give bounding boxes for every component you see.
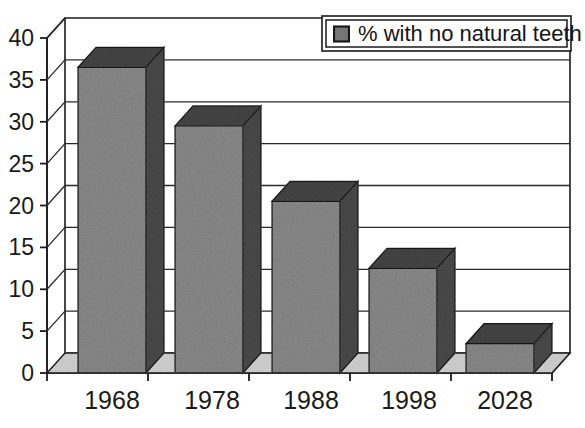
bar-1998 [369,248,455,373]
x-tick-label: 2028 [477,386,533,414]
y-tick-label: 10 [8,276,34,302]
y-tick-label: 15 [8,234,34,260]
y-tick-label: 25 [8,151,34,177]
bar-1988 [272,181,358,373]
x-tick-label: 1968 [84,386,140,414]
bar-2028 [466,324,552,373]
bar-chart: 0 5 10 15 20 25 30 35 40 [0,0,585,428]
x-tick-label: 1978 [184,386,240,414]
bar-1978 [175,106,261,373]
chart-legend: % with no natural teeth [322,16,582,51]
x-tick-label: 1998 [381,386,437,414]
y-axis-labels: 0 5 10 15 20 25 30 35 40 [8,25,34,386]
y-axis-ticks [40,38,47,373]
y-tick-label: 40 [8,25,34,51]
legend-label: % with no natural teeth [358,21,582,46]
y-tick-label: 30 [8,109,34,135]
y-tick-label: 35 [8,67,34,93]
bar-1968 [78,47,164,373]
y-tick-label: 0 [21,360,34,386]
x-axis-labels: 1968 1978 1988 1998 2028 [84,386,533,414]
y-tick-label: 5 [21,318,34,344]
y-tick-label: 20 [8,193,34,219]
legend-color-swatch [334,27,349,42]
chart-canvas: 0 5 10 15 20 25 30 35 40 [0,0,585,428]
x-tick-label: 1988 [283,386,339,414]
x-axis-ticks [47,373,552,381]
